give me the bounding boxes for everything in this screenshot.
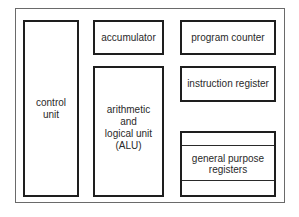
accumulator-box: accumulator — [93, 20, 164, 55]
program-counter-label: program counter — [191, 32, 264, 44]
alu-label: arithmetic and logical unit (ALU) — [105, 104, 152, 152]
general-purpose-registers-box: general purpose registers — [180, 131, 276, 197]
general-purpose-registers-cell: general purpose registers — [182, 147, 274, 181]
instruction-register-box: instruction register — [180, 66, 276, 102]
program-counter-box: program counter — [180, 20, 276, 55]
instruction-register-label: instruction register — [187, 78, 269, 90]
general-purpose-registers-label: general purpose registers — [192, 153, 264, 175]
control-unit-box: control unit — [23, 20, 79, 197]
control-unit-label: control unit — [36, 97, 66, 121]
register-divider-top — [182, 145, 274, 146]
alu-box: arithmetic and logical unit (ALU) — [93, 66, 164, 197]
accumulator-label: accumulator — [101, 32, 155, 44]
register-divider-bottom — [182, 180, 274, 181]
